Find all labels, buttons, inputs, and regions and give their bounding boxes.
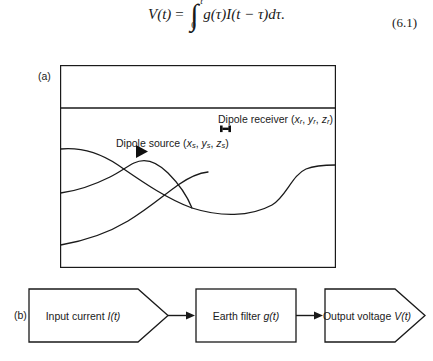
equation-lhs: V(t) [148, 6, 171, 22]
flow-node-input-current-label: Input current I(t) [46, 310, 121, 322]
flow-label-plain-1: Input current [46, 310, 108, 322]
figure-page: V(t) = ∫t0 g(τ)I(t − τ)dτ. (6.1) (a) [0, 0, 433, 361]
dipole-receiver-close: ) [329, 113, 333, 125]
integral-upper-limit: t [200, 0, 203, 6]
arrow-input-to-filter [168, 312, 195, 320]
equation-block: V(t) = ∫t0 g(τ)I(t − τ)dτ. (6.1) [0, 6, 433, 40]
equation-integrand: g(τ)I(t − τ)dτ. [203, 6, 285, 22]
dipole-source-text: Dipole source ( [116, 137, 187, 149]
flow-label-plain-2: Earth filter [213, 310, 264, 322]
panel-a-frame [61, 66, 336, 268]
equation-equals: = [175, 6, 183, 22]
dipole-source-close: ) [225, 137, 229, 149]
panel-a-label: (a) [38, 70, 51, 82]
arrow-filter-to-output [296, 312, 323, 320]
flow-label-italic-3: V(t) [394, 310, 411, 322]
flow-label-italic-2: g(t) [264, 310, 280, 322]
panel-b-flowchart: Input current I(t) Earth filter g(t) Out… [28, 288, 426, 344]
dipole-source-label: Dipole source (xs, ys, zs) [116, 137, 229, 150]
flow-node-earth-filter-label: Earth filter g(t) [213, 310, 280, 322]
equation-number: (6.1) [392, 15, 417, 31]
flow-label-plain-3: Output voltage [323, 310, 394, 322]
flow-label-italic-1: I(t) [108, 310, 121, 322]
panel-b-label: (b) [14, 309, 27, 321]
flow-node-output-voltage-label: Output voltage V(t) [323, 310, 411, 322]
equation-expression: V(t) = ∫t0 g(τ)I(t − τ)dτ. [0, 6, 433, 23]
dipole-receiver-label: Dipole receiver (xr, yr, zr) [218, 113, 333, 126]
integral-lower-limit: 0 [191, 21, 196, 30]
panel-a-diagram [60, 65, 336, 268]
dipole-receiver-text: Dipole receiver ( [218, 113, 294, 125]
